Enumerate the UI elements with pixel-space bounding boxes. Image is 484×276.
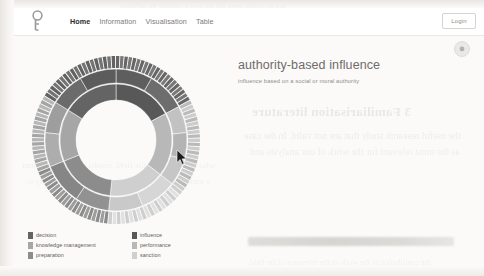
sunburst-leaf-knowledge-management[interactable] [32,142,44,146]
legend-item-decision[interactable]: decision [28,230,128,240]
legend-label: sanction [140,252,160,258]
ghost-text-line-1: the useful research study that are not v… [244,130,461,141]
nav-item-information[interactable]: Information [99,17,136,26]
key-logo-icon[interactable] [26,9,48,35]
legend-label: influence [140,232,162,238]
nav-item-visualisation[interactable]: Visualisation [145,17,187,26]
legend-swatch-icon [132,252,137,259]
legend-item-influence[interactable]: influence [132,230,232,240]
sunburst-leaf-knowledge-management[interactable] [32,129,44,133]
sunburst-leaf-preparation[interactable] [104,211,109,223]
sunburst-leaf-influence[interactable] [123,56,128,68]
legend-label: preparation [36,252,64,258]
paper-edge-top [0,0,484,8]
legend-swatch-icon [28,242,33,249]
sunburst-leaf-decision[interactable] [112,56,116,68]
sunburst-leaf-performance[interactable] [188,143,200,147]
sunburst-leaf-decision[interactable] [107,56,111,68]
top-navigation-bar: Home Information Visualisation Table Log… [14,8,484,36]
sunburst-leaf-performance[interactable] [187,130,199,134]
sunburst-leaf-influence[interactable] [116,56,119,68]
nav-item-home[interactable]: Home [70,17,90,26]
sunburst-leaf-influence[interactable] [120,56,124,68]
gear-icon [458,45,466,53]
legend-swatch-icon [28,252,33,259]
sunburst-leaf-performance[interactable] [188,139,200,142]
legend-item-sanction[interactable]: sanction [132,250,232,260]
settings-icon-button[interactable] [454,41,470,57]
sunburst-leaf-performance[interactable] [187,146,199,150]
title-block: authority-based influence influence base… [238,58,474,85]
sunburst-leaf-sanction[interactable] [117,212,121,224]
nav-links: Home Information Visualisation Table [70,17,214,26]
sunburst-leaf-sanction[interactable] [121,212,125,224]
sunburst-leaf-sanction[interactable] [113,212,116,224]
legend-swatch-icon [28,232,33,239]
paper-edge-left [0,0,14,276]
legend-label: performance [140,242,171,248]
ghost-text-line-2: as the most relevant for the work of our… [250,146,460,157]
sunburst-svg[interactable] [18,54,214,226]
legend-swatch-icon [132,232,137,239]
sunburst-leaf-sanction[interactable] [108,212,112,224]
legend-label: knowledge management [36,242,96,248]
chart-legend: decision knowledge management preparatio… [28,230,228,260]
page-title: authority-based influence [238,58,474,73]
sunburst-segment-performance[interactable] [171,133,187,160]
sunburst-leaf-knowledge-management[interactable] [32,146,44,150]
sunburst-ring-inner[interactable] [60,84,172,196]
legend-item-knowledge-management[interactable]: knowledge management [28,240,128,250]
sunburst-chart[interactable] [18,54,214,226]
nav-item-table[interactable]: Table [196,17,214,26]
ghost-text-heading: 3 Familiarisation literature [252,104,411,120]
ghost-highlight-bar [248,237,454,246]
paper-edge-bottom [0,266,484,276]
sunburst-leaf-knowledge-management[interactable] [32,134,44,138]
sunburst-leaf-knowledge-management[interactable] [32,138,44,141]
page-canvas: and the related terms that are used to m… [0,0,484,276]
legend-swatch-icon [132,242,137,249]
legend-item-performance[interactable]: performance [132,240,232,250]
sunburst-leaf-performance[interactable] [188,134,200,138]
legend-item-preparation[interactable]: preparation [28,250,128,260]
login-button[interactable]: Login [442,13,476,29]
page-subtitle: influence based on a social or moral aut… [238,77,474,85]
legend-label: decision [36,232,56,238]
